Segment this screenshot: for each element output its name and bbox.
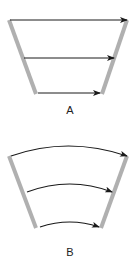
right-wall-b <box>101 156 127 228</box>
left-wall-a <box>9 20 36 94</box>
arrow-top-b <box>11 146 127 156</box>
left-wall-b <box>9 156 36 228</box>
diagram-a: A <box>9 20 127 116</box>
diagram-b: B <box>9 146 127 258</box>
diagram-label-b: B <box>66 246 73 258</box>
right-wall-a <box>102 20 127 94</box>
arrow-middle-b <box>27 184 112 192</box>
diagram-canvas: A B <box>0 0 137 268</box>
arrow-bottom-b <box>40 222 99 227</box>
diagram-label-a: A <box>66 104 74 116</box>
